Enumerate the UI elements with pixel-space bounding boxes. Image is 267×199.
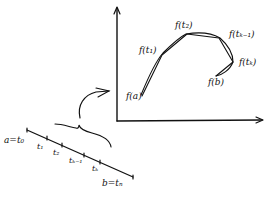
label-f-tk-minus-1: f(tₖ₋₁) xyxy=(229,30,255,39)
arrowhead-icon xyxy=(96,88,109,97)
label-f-t2: f(t₂) xyxy=(175,21,193,30)
label-f-a: f(a) xyxy=(126,92,142,101)
label-tk: tₖ xyxy=(92,165,98,173)
label-f-b: f(b) xyxy=(208,78,224,87)
label-b-tn: b=tₙ xyxy=(102,179,123,188)
diagram-canvas: f(a) f(t₁) f(t₂) f(tₖ₋₁) f(tₖ) f(b) a=t₀… xyxy=(0,0,267,199)
label-t2: t₂ xyxy=(53,149,59,157)
label-a-t0: a=t₀ xyxy=(4,136,24,145)
interval-line xyxy=(27,130,133,177)
label-f-tk: f(tₖ) xyxy=(239,58,256,67)
label-tk-minus-1: tₖ₋₁ xyxy=(69,157,83,165)
brace-icon xyxy=(55,124,111,147)
x-axis xyxy=(117,120,262,121)
label-f-t1: f(t₁) xyxy=(139,46,157,55)
label-t1: t₁ xyxy=(37,143,43,151)
mapping-arrow-icon xyxy=(79,91,109,118)
